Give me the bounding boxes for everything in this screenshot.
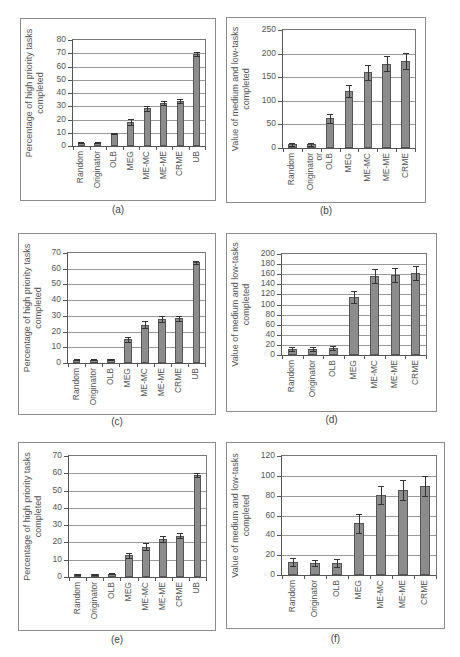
- error-cap: [400, 500, 406, 501]
- y-tick-mark: [278, 77, 282, 78]
- error-cap: [144, 111, 150, 112]
- x-tick-mark: [392, 576, 393, 579]
- x-tick-label: CRME: [174, 368, 183, 414]
- error-cap: [109, 574, 115, 575]
- gridline: [73, 120, 205, 121]
- error-cap: [403, 69, 409, 70]
- y-tick-label: 20: [35, 326, 61, 336]
- x-tick-label: OLB: [109, 151, 118, 197]
- y-tick-mark: [64, 473, 68, 474]
- gridline: [69, 525, 206, 526]
- bar-me-me: [382, 64, 390, 148]
- y-tick-label: 0: [249, 569, 275, 579]
- y-tick-mark: [68, 93, 72, 94]
- y-tick-label: 40: [36, 502, 62, 512]
- bar-ub: [193, 54, 200, 146]
- bar-crme: [176, 536, 184, 577]
- x-tick-label: Random: [76, 151, 85, 197]
- y-tick-label: 140: [249, 278, 275, 288]
- y-tick-label: 50: [250, 118, 276, 128]
- gridline: [68, 316, 205, 317]
- gridline: [282, 274, 426, 275]
- x-tick-mark: [137, 364, 138, 367]
- error-bar: [403, 480, 404, 500]
- error-cap: [334, 567, 340, 568]
- error-cap: [327, 123, 333, 124]
- gridline: [69, 491, 206, 492]
- x-tick-label: CRME: [420, 580, 429, 626]
- y-tick-label: 50: [36, 485, 62, 495]
- x-tick-label: ME-MC: [376, 580, 385, 626]
- y-tick-mark: [277, 274, 281, 275]
- bar-ub: [193, 262, 201, 363]
- y-tick-label: 40: [249, 329, 275, 339]
- error-cap: [422, 496, 428, 497]
- x-tick-mark: [385, 356, 386, 359]
- x-tick-mark: [102, 364, 103, 367]
- x-tick-mark: [189, 578, 190, 581]
- bar-me-me: [391, 275, 400, 355]
- error-cap: [365, 80, 371, 81]
- error-cap: [75, 575, 81, 576]
- x-tick-label: MEG: [124, 582, 133, 628]
- plot-area-a: [72, 39, 206, 147]
- error-cap: [290, 558, 296, 559]
- panel-label-b: (b): [306, 205, 346, 216]
- error-cap: [125, 342, 131, 343]
- y-tick-mark: [64, 577, 68, 578]
- y-tick-label: 100: [249, 470, 275, 480]
- y-tick-mark: [277, 284, 281, 285]
- y-tick-mark: [63, 363, 67, 364]
- plot-area-e: [68, 455, 207, 578]
- gridline: [73, 80, 205, 81]
- bar-crme: [175, 318, 183, 363]
- error-cap: [126, 553, 132, 554]
- gridline: [73, 133, 205, 134]
- y-tick-label: 40: [40, 87, 66, 97]
- error-bar: [359, 514, 360, 534]
- y-axis-label-b: Value of medium and low-tasks completed: [230, 14, 252, 164]
- error-cap: [159, 316, 165, 317]
- gridline: [73, 106, 205, 107]
- y-tick-label: 120: [249, 450, 275, 460]
- gridline: [282, 476, 436, 477]
- x-tick-label: ME-MC: [140, 368, 149, 414]
- y-tick-label: 0: [35, 357, 61, 367]
- x-tick-mark: [68, 364, 69, 367]
- error-cap: [177, 103, 183, 104]
- y-tick-label: 10: [35, 341, 61, 351]
- error-cap: [384, 56, 390, 57]
- gridline: [282, 284, 426, 285]
- error-cap: [372, 283, 378, 284]
- y-tick-mark: [277, 575, 281, 576]
- x-tick-label: Originator: [90, 582, 99, 628]
- x-tick-label: ME-ME: [158, 582, 167, 628]
- gridline: [73, 93, 205, 94]
- error-cap: [334, 559, 340, 560]
- x-tick-mark: [154, 364, 155, 367]
- x-tick-label: ME-ME: [390, 360, 399, 406]
- error-cap: [126, 558, 132, 559]
- error-cap: [111, 134, 117, 135]
- y-tick-label: 200: [250, 48, 276, 58]
- y-tick-mark: [277, 456, 281, 457]
- gridline: [68, 347, 205, 348]
- x-tick-label: ME-ME: [382, 153, 391, 199]
- x-tick-mark: [377, 149, 378, 152]
- error-cap: [108, 360, 114, 361]
- error-cap: [312, 566, 318, 567]
- x-tick-mark: [396, 149, 397, 152]
- error-cap: [143, 550, 149, 551]
- x-tick-mark: [123, 147, 124, 150]
- error-cap: [161, 105, 167, 106]
- error-cap: [378, 504, 384, 505]
- y-tick-mark: [277, 325, 281, 326]
- y-tick-mark: [278, 30, 282, 31]
- error-cap: [330, 346, 336, 347]
- x-tick-label: OLB: [332, 580, 341, 626]
- y-tick-label: 160: [249, 268, 275, 278]
- y-tick-label: 40: [35, 294, 61, 304]
- y-tick-mark: [277, 305, 281, 306]
- x-tick-mark: [405, 356, 406, 359]
- error-cap: [308, 146, 314, 147]
